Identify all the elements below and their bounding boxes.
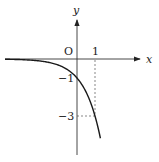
y-tick-minus-3: −3	[58, 110, 74, 123]
curve-line	[5, 59, 100, 138]
graph-plot: y x O 1 −1 −3	[0, 0, 159, 162]
x-axis-label: x	[146, 53, 153, 66]
x-tick-1: 1	[92, 45, 99, 58]
y-tick-minus-1: −1	[58, 72, 74, 85]
y-axis-label: y	[72, 4, 80, 17]
origin-label: O	[64, 45, 73, 58]
